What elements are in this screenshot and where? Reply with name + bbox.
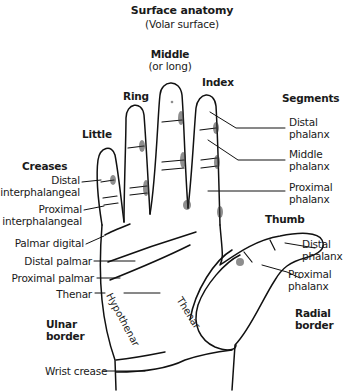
leader-distal-phalanx (210, 112, 285, 128)
label-radial-border-1: Radial (295, 307, 331, 319)
label-distal-phalanx-2: phalanx (289, 128, 330, 140)
label-proximal-phalanx-2: phalanx (289, 193, 330, 205)
label-distal-palmar: Distal palmar (0, 255, 92, 267)
segments-heading: Segments (282, 92, 339, 104)
label-index-finger: Index (202, 76, 234, 88)
diagram-subtitle: (Volar surface) (122, 18, 242, 30)
label-proximal-palmar: Proximal palmar (0, 272, 94, 284)
label-thumb: Thumb (265, 213, 305, 225)
label-thumb-proximal-2: phalanx (288, 280, 329, 292)
little-finger-outline (97, 148, 124, 225)
diagram-title: Surface anatomy (122, 5, 242, 17)
middle-finger-outline (150, 83, 188, 214)
label-distal-phalanx-1: Distal (289, 116, 318, 128)
label-distal-ip-1: Distal (0, 174, 80, 186)
label-proximal-ip-1: Proximal (0, 203, 82, 215)
wrist-crease-line (116, 352, 165, 360)
label-middle-finger-sub: (or long) (140, 60, 200, 72)
label-wrist-crease: Wrist crease (45, 365, 107, 377)
label-palmar-digital: Palmar digital (0, 237, 84, 249)
thenar-eminence (196, 255, 240, 350)
label-thumb-proximal-1: Proximal (288, 268, 331, 280)
label-ulnar-border-1: Ulnar (46, 318, 77, 330)
label-thenar-crease: Thenar (0, 288, 92, 300)
label-thumb-distal-1: Distal (302, 238, 331, 250)
creases-heading: Creases (22, 160, 67, 172)
label-ring-finger: Ring (123, 90, 149, 102)
label-distal-ip-2: interphalangeal (0, 186, 80, 198)
leader-middle-phalanx (208, 140, 285, 160)
label-middle-phalanx-2: phalanx (289, 160, 330, 172)
label-middle-finger: Middle (140, 48, 200, 60)
proximal-palmar-crease (110, 245, 190, 280)
label-radial-border-2: border (295, 319, 334, 331)
leader-proximal-ip (84, 206, 104, 210)
ring-finger-outline (124, 105, 150, 222)
label-proximal-phalanx-1: Proximal (289, 181, 332, 193)
label-middle-phalanx-1: Middle (289, 148, 322, 160)
distal-palmar-crease (108, 232, 196, 262)
label-little-finger: Little (82, 128, 112, 140)
label-proximal-ip-2: interphalangeal (0, 215, 82, 227)
leader-distal-ip (82, 180, 101, 182)
label-thumb-distal-2: phalanx (302, 250, 343, 262)
label-ulnar-border-2: border (46, 330, 85, 342)
